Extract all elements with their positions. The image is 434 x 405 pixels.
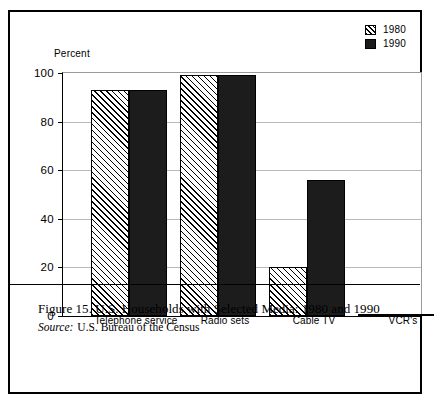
- plot-wrapper: 100 80 60 40 20 0: [54, 64, 420, 324]
- bar-1990-radio-sets: [218, 75, 256, 316]
- chart-legend: 1980 1990: [365, 24, 406, 49]
- figure-source: Source:U.S. Bureau of the Census: [38, 319, 402, 335]
- ytick-mark-80: [58, 122, 63, 123]
- y-axis-title: Percent: [54, 48, 90, 59]
- ytick-mark-100: [58, 73, 63, 74]
- ytick-label-20: 20: [41, 261, 54, 273]
- ytick-label-60: 60: [41, 164, 54, 176]
- legend-entry-1980: 1980: [365, 24, 406, 35]
- figure-frame: 1980 1990 Percent 100 80 60 40 20: [8, 10, 422, 394]
- legend-label-1980: 1980: [383, 24, 406, 35]
- bar-1990-telephone-service: [129, 90, 167, 316]
- plot-area: 100 80 60 40 20 0: [62, 72, 422, 317]
- figure-title: Figure 15. U.S. Households with Selected…: [38, 300, 402, 317]
- ytick-label-100: 100: [34, 67, 54, 79]
- bar-group-radio-sets: [180, 75, 256, 316]
- ytick-label-80: 80: [41, 116, 54, 128]
- ytick-mark-40: [58, 219, 63, 220]
- caption-block: Figure 15. U.S. Households with Selected…: [38, 300, 402, 335]
- solid-swatch-icon: [365, 39, 376, 49]
- legend-entry-1990: 1990: [365, 38, 406, 49]
- ytick-label-40: 40: [41, 213, 54, 225]
- caption-divider: [10, 284, 420, 285]
- bar-1980-telephone-service: [91, 90, 129, 316]
- bar-group-cable-tv: [269, 180, 345, 316]
- ytick-mark-60: [58, 170, 63, 171]
- ytick-mark-20: [58, 267, 63, 268]
- source-label: Source:: [38, 321, 73, 333]
- hatched-swatch-icon: [365, 25, 376, 35]
- bar-group-telephone-service: [91, 90, 167, 316]
- bar-1980-radio-sets: [180, 75, 218, 316]
- source-text: U.S. Bureau of the Census: [77, 321, 199, 333]
- bar-1990-cable-tv: [307, 180, 345, 316]
- legend-label-1990: 1990: [383, 38, 406, 49]
